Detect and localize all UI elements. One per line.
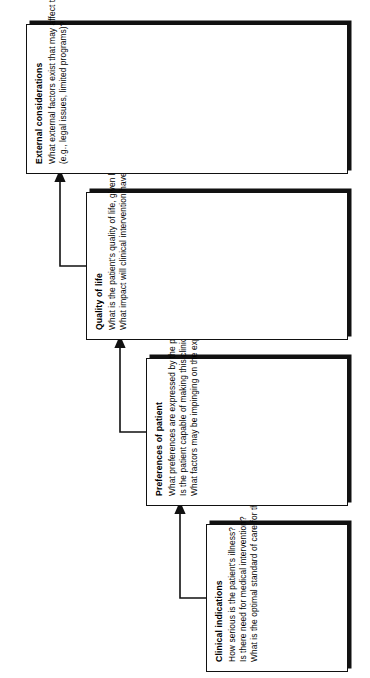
connector-arrow-2-glyph — [116, 332, 150, 434]
node-line: What preferences are expressed by the pa… — [167, 368, 178, 496]
node-line: What external factors exist that may aff… — [47, 34, 58, 164]
node-line: How serious is the patient's illness? — [227, 534, 238, 662]
node-title: External considerations — [34, 34, 46, 164]
node-clinical-indications: Clinical indications How serious is the … — [206, 524, 348, 672]
connector-arrow-2 — [116, 332, 150, 434]
node-line: What impact will clinical intervention h… — [118, 202, 129, 330]
node-quality-of-life: Quality of life What is the patient's qu… — [86, 192, 348, 340]
node-preferences-of-patient: Preferences of patient What preferences … — [146, 358, 348, 506]
node-line: Is there need for medical intervention? — [238, 534, 249, 662]
node-line: What is the patient's quality of life, g… — [107, 202, 118, 330]
node-title: Quality of life — [94, 202, 106, 330]
node-title: Preferences of patient — [154, 368, 166, 496]
figure-canvas: Clinical indications How serious is the … — [0, 0, 370, 678]
node-line: What is the optimal standard of care for… — [249, 534, 260, 662]
node-external-considerations: External considerations What external fa… — [26, 24, 348, 174]
connector-arrow-1 — [176, 498, 210, 600]
connector-arrow-1-glyph — [176, 498, 210, 600]
node-line: What factors may be impinging on the exp… — [189, 368, 200, 496]
node-line: (e.g., legal issues, limited programs)? — [58, 34, 69, 164]
diagram-stage: Clinical indications How serious is the … — [0, 0, 370, 678]
node-title: Clinical indications — [214, 534, 226, 662]
node-line: Is the patient capable of making this cl… — [178, 368, 189, 496]
connector-arrow-3 — [56, 166, 90, 268]
connector-arrow-3-glyph — [56, 166, 90, 268]
